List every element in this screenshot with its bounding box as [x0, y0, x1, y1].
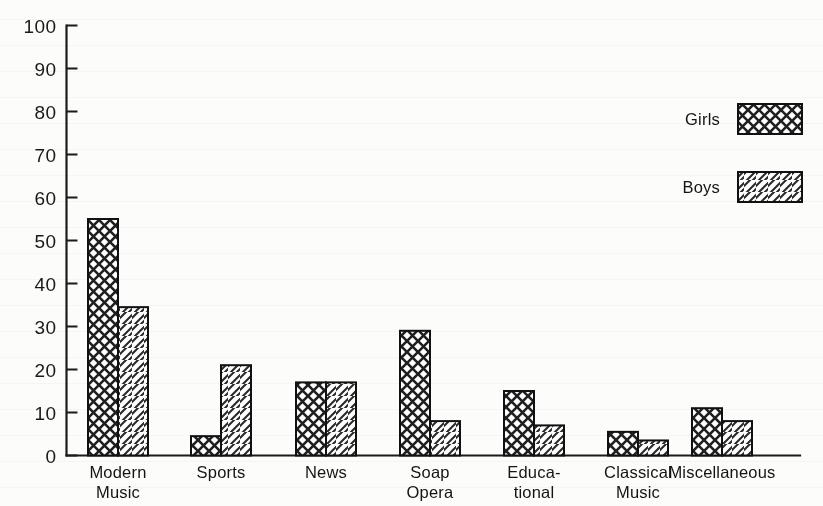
chart-legend: GirlsBoys: [683, 104, 802, 202]
y-axis: 0102030405060708090100: [24, 16, 78, 467]
bar-girls-news: [296, 382, 326, 455]
x-axis-category-label: Sports: [197, 463, 246, 481]
bar-boys-classical-music: [638, 440, 668, 455]
x-axis-category-label: Opera: [407, 483, 454, 501]
legend-label-girls: Girls: [685, 110, 720, 128]
legend-swatch-boys: [738, 172, 802, 202]
x-axis-category-label: Educa-: [507, 463, 560, 481]
bar-boys-soap-opera: [430, 421, 460, 455]
legend-label-boys: Boys: [683, 178, 720, 196]
category-labels: ModernMusicSportsNewsSoapOperaEduca-tion…: [89, 463, 775, 501]
x-axis-category-label: Miscellaneous: [668, 463, 775, 481]
x-axis-category-label: Classical: [604, 463, 672, 481]
bar-girls-classical-music: [608, 432, 638, 456]
y-axis-tick-label: 10: [35, 403, 57, 424]
x-axis-category-label: News: [305, 463, 347, 481]
y-axis-tick-label: 20: [35, 360, 57, 381]
bar-girls-sports: [191, 436, 221, 455]
y-axis-tick-label: 0: [46, 446, 57, 467]
bar-boys-modern-music: [118, 307, 148, 455]
x-axis-category-label: Soap: [410, 463, 449, 481]
y-axis-tick-label: 80: [35, 102, 57, 123]
y-axis-tick-label: 100: [24, 16, 57, 37]
bar-boys-miscellaneous: [722, 421, 752, 455]
y-axis-tick-label: 60: [35, 188, 57, 209]
x-axis-category-label: Music: [616, 483, 660, 501]
x-axis-category-label: Music: [96, 483, 140, 501]
x-axis-category-label: tional: [514, 483, 555, 501]
bar-girls-miscellaneous: [692, 408, 722, 455]
bar-boys-educational: [534, 425, 564, 455]
bar-girls-modern-music: [88, 219, 118, 456]
x-axis-category-label: Modern: [89, 463, 146, 481]
y-axis-tick-label: 30: [35, 317, 57, 338]
bars-layer: [88, 219, 752, 456]
y-axis-tick-label: 40: [35, 274, 57, 295]
legend-swatch-girls: [738, 104, 802, 134]
y-axis-tick-label: 50: [35, 231, 57, 252]
bar-boys-sports: [221, 365, 251, 455]
chart-canvas: 0102030405060708090100 ModernMusicSports…: [0, 0, 823, 506]
bar-girls-soap-opera: [400, 331, 430, 456]
y-axis-tick-label: 70: [35, 145, 57, 166]
bar-boys-news: [326, 382, 356, 455]
bar-girls-educational: [504, 391, 534, 456]
bar-chart: 0102030405060708090100 ModernMusicSports…: [0, 0, 823, 506]
y-axis-tick-label: 90: [35, 59, 57, 80]
